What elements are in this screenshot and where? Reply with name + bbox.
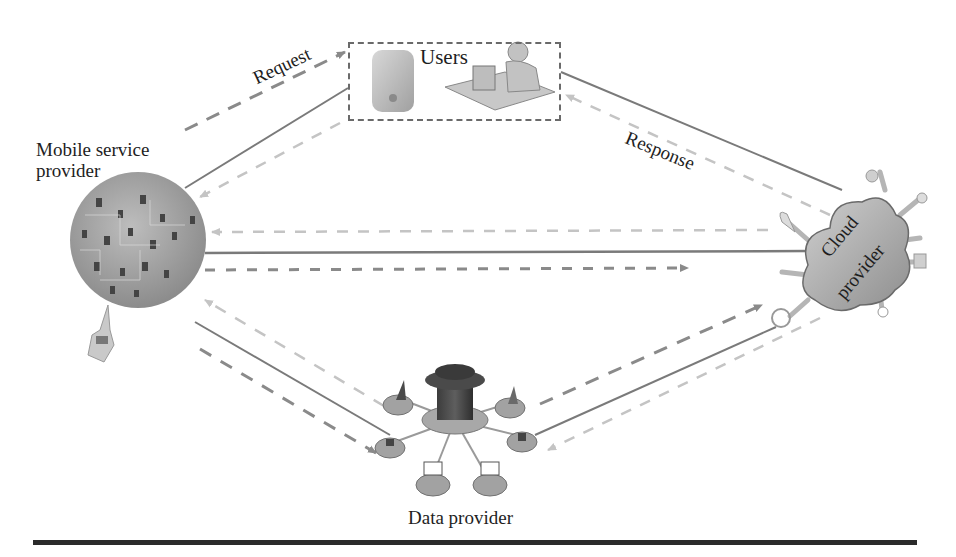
edges-users-cloud [561, 72, 842, 215]
bottom-rule-divider [33, 540, 917, 545]
data-provider-label: Data provider [408, 508, 513, 529]
edges-msp-cloud [205, 230, 808, 270]
edges-msp-data [195, 300, 390, 453]
users-label: Users [420, 46, 468, 69]
mobile-service-provider-label-line2: provider [36, 161, 100, 182]
cloud-icon [772, 170, 927, 327]
device-network-globe-icon [70, 172, 206, 362]
database-network-icon [375, 364, 537, 496]
mobile-service-provider-label-line1: Mobile service [36, 140, 149, 161]
